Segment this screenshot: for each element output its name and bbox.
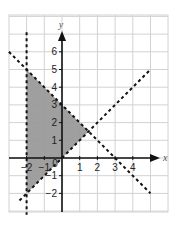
- y-tick-label: −1: [46, 170, 58, 181]
- x-axis-arrow-icon: [150, 154, 160, 162]
- y-axis-arrow-icon: [58, 31, 66, 41]
- origin-label: 0: [52, 158, 58, 169]
- y-tick-label: 6: [51, 46, 57, 57]
- y-tick-label: −2: [46, 188, 58, 199]
- y-tick-label: 4: [51, 82, 57, 93]
- y-tick-label: 3: [51, 99, 57, 110]
- y-axis-label: y: [58, 19, 64, 30]
- inequality-graph: −2−11234−2−1123456 x y 0: [0, 0, 177, 227]
- y-tick-label: 5: [51, 64, 57, 75]
- x-tick-label: 3: [112, 162, 118, 173]
- x-tick-label: 1: [77, 162, 83, 173]
- y-tick-label: 1: [51, 135, 57, 146]
- x-axis-label: x: [162, 152, 168, 163]
- x-tick-label: −2: [21, 162, 33, 173]
- x-tick-label: 4: [130, 162, 136, 173]
- x-tick-label: 2: [95, 162, 101, 173]
- y-tick-label: 2: [51, 117, 57, 128]
